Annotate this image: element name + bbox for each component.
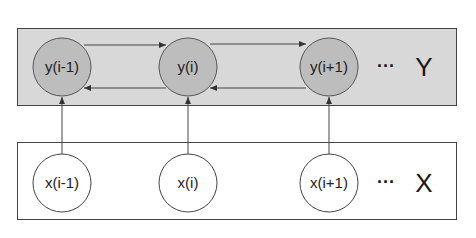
x-node-1: x(i)	[159, 154, 217, 212]
x-layer-ellipsis: ···	[377, 172, 395, 192]
x-layer-label: X	[415, 168, 432, 198]
y-node-label: y(i)	[178, 58, 199, 75]
x-node-0: x(i-1)	[33, 154, 91, 212]
y-node-2: y(i+1)	[300, 38, 358, 96]
y-layer-label: Y	[415, 52, 432, 82]
x-node-2: x(i+1)	[300, 154, 358, 212]
x-node-label: x(i+1)	[310, 174, 348, 191]
x-node-label: x(i)	[178, 174, 199, 191]
y-node-0: y(i-1)	[33, 38, 91, 96]
x-node-label: x(i-1)	[45, 174, 79, 191]
y-node-1: y(i)	[159, 38, 217, 96]
crf-diagram: y(i-1) y(i) y(i+1) ··· Y x(i-1) x(i) x(i…	[0, 0, 476, 238]
y-node-label: y(i-1)	[45, 58, 79, 75]
y-node-label: y(i+1)	[310, 58, 348, 75]
y-layer-ellipsis: ···	[377, 56, 395, 76]
